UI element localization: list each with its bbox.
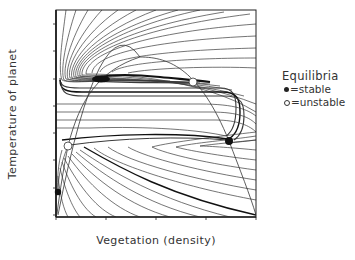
stable-equilibrium-lower-left (55, 189, 61, 195)
plot-frame (56, 10, 256, 217)
flow-lines (56, 10, 256, 217)
phase-portrait-figure (0, 0, 355, 260)
unstable-equilibrium-upper-right (189, 78, 197, 86)
nullcline-curve (58, 45, 256, 215)
legend-title: Equilibria (282, 70, 345, 83)
legend-label-unstable: =unstable (291, 96, 345, 109)
unstable-equilibrium-left (64, 142, 72, 150)
stable-equilibrium-upper (92, 76, 110, 83)
open-circle-icon (284, 100, 290, 106)
y-axis-label: Temperature of planet (6, 49, 19, 180)
stable-equilibrium-lower-right (225, 137, 233, 145)
legend-item-unstable: =unstable (284, 96, 345, 109)
legend-label-stable: =stable (290, 83, 331, 96)
legend: Equilibria =stable =unstable (282, 70, 345, 109)
x-axis-label: Vegetation (density) (56, 234, 256, 247)
filled-circle-icon (284, 87, 289, 92)
legend-item-stable: =stable (284, 83, 345, 96)
